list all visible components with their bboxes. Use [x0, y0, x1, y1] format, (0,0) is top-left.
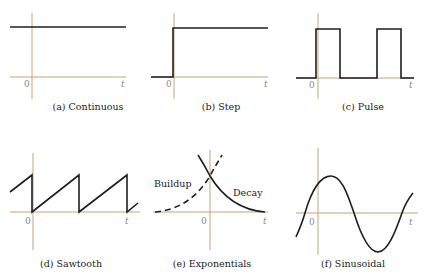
- origin-label: 0: [309, 80, 315, 90]
- time-label: t: [121, 79, 125, 89]
- caption-exponentials: (e) Exponentials: [173, 258, 252, 269]
- caption-pulse: (c) Pulse: [342, 101, 384, 112]
- time-label: t: [264, 79, 268, 89]
- decay-label: Decay: [233, 187, 263, 198]
- signal-decay: [198, 155, 265, 212]
- origin-label: 0: [201, 216, 207, 226]
- panel-sawtooth: 0 t (d) Sawtooth: [10, 153, 140, 269]
- signal-sawtooth: [10, 175, 138, 212]
- caption-sinusoidal: (f) Sinusoidal: [321, 258, 385, 269]
- signal-pulse: [296, 29, 414, 78]
- panel-pulse: 0 t (c) Pulse: [296, 13, 414, 112]
- origin-label: 0: [166, 79, 172, 89]
- caption-sawtooth: (d) Sawtooth: [40, 258, 102, 269]
- panel-continuous: 0 t (a) Continuous: [10, 13, 126, 112]
- signal-types-figure: 0 t (a) Continuous 0 t (b) Step 0 t (c) …: [0, 0, 425, 278]
- panel-sinusoidal: 0 t (f) Sinusoidal: [296, 148, 418, 269]
- panel-step: 0 t (b) Step: [151, 13, 268, 112]
- panel-exponentials: Buildup Decay 0 t (e) Exponentials: [153, 150, 268, 269]
- origin-label: 0: [309, 217, 315, 227]
- buildup-label: Buildup: [154, 178, 191, 189]
- time-label: t: [263, 216, 267, 226]
- signal-step: [151, 28, 268, 77]
- caption-step: (b) Step: [202, 101, 241, 112]
- signal-sinusoid: [296, 176, 413, 252]
- time-label: t: [409, 80, 413, 90]
- origin-label: 0: [24, 79, 30, 89]
- caption-continuous: (a) Continuous: [52, 101, 123, 112]
- time-label: t: [409, 217, 413, 227]
- time-label: t: [125, 216, 129, 226]
- origin-label: 0: [25, 216, 31, 226]
